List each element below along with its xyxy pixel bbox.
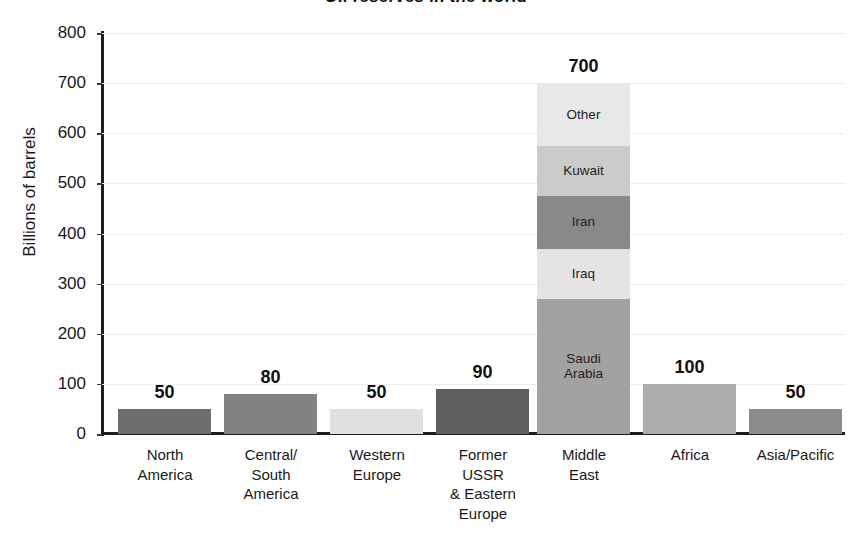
y-tick-mark xyxy=(97,434,102,436)
x-axis-label-7: Asia/Pacific xyxy=(733,445,851,465)
bar-segment-label-line: Saudi xyxy=(537,351,630,367)
bar-value-label: 50 xyxy=(118,383,211,401)
y-tick-label: 300 xyxy=(16,275,86,292)
x-axis-label-line: Asia/Pacific xyxy=(733,445,851,465)
x-axis-label-line: Western xyxy=(322,445,432,465)
bar-value-label: 90 xyxy=(436,363,529,381)
x-axis-label-line: East xyxy=(529,465,639,485)
x-axis-label-line: America xyxy=(216,484,326,504)
bar-5[interactable]: SaudiArabiaIraqIranKuwaitOther700 xyxy=(537,83,630,434)
y-tick-mark xyxy=(97,33,102,35)
y-tick-label: 800 xyxy=(16,24,86,41)
bar-value-label: 100 xyxy=(643,358,736,376)
y-tick-label: 700 xyxy=(16,74,86,91)
y-tick-mark xyxy=(97,384,102,386)
x-axis-label-3: WesternEurope xyxy=(322,445,432,484)
x-axis-label-line: North xyxy=(110,445,220,465)
x-axis-label-line: America xyxy=(110,465,220,485)
y-tick-label: 600 xyxy=(16,124,86,141)
bar-4[interactable]: 90 xyxy=(436,389,529,434)
y-tick-mark xyxy=(97,234,102,236)
gridline xyxy=(102,183,845,184)
gridline xyxy=(102,83,845,84)
y-tick-mark xyxy=(97,133,102,135)
x-axis-label-line: Middle xyxy=(529,445,639,465)
bar-segment-other[interactable]: Other xyxy=(537,83,630,146)
y-tick-mark xyxy=(97,183,102,185)
chart-container: Oil reserves in the world Billions of ba… xyxy=(0,0,851,535)
bar-segment-label-line: Kuwait xyxy=(537,163,630,179)
bar-segment[interactable] xyxy=(643,384,736,434)
bar-value-label: 700 xyxy=(537,57,630,75)
bar-segment-saudi-arabia[interactable]: SaudiArabia xyxy=(537,299,630,434)
bar-segment-iran[interactable]: Iran xyxy=(537,196,630,249)
y-tick-label: 400 xyxy=(16,225,86,242)
x-axis-label-1: NorthAmerica xyxy=(110,445,220,484)
bar-segment-label: Iran xyxy=(537,214,630,230)
bar-6[interactable]: 100 xyxy=(643,384,736,434)
x-axis-label-line: Former xyxy=(428,445,538,465)
x-axis-label-line: Europe xyxy=(428,504,538,524)
bar-2[interactable]: 80 xyxy=(224,394,317,434)
bar-segment-label-line: Iran xyxy=(537,214,630,230)
bar-7[interactable]: 50 xyxy=(749,409,842,434)
bar-value-label: 50 xyxy=(330,383,423,401)
x-axis-label-line: Europe xyxy=(322,465,432,485)
bar-segment[interactable] xyxy=(436,389,529,434)
bar-segment-label: Other xyxy=(537,107,630,123)
y-tick-mark xyxy=(97,334,102,336)
gridline xyxy=(102,234,845,235)
y-tick-label: 200 xyxy=(16,325,86,342)
bar-segment[interactable] xyxy=(330,409,423,434)
bar-segment-label-line: Iraq xyxy=(537,266,630,282)
bar-segment-iraq[interactable]: Iraq xyxy=(537,249,630,299)
x-axis-label-4: FormerUSSR& EasternEurope xyxy=(428,445,538,523)
bar-segment-label: Kuwait xyxy=(537,163,630,179)
x-axis-label-line: USSR xyxy=(428,465,538,485)
gridline xyxy=(102,133,845,134)
x-axis-label-2: Central/SouthAmerica xyxy=(216,445,326,504)
y-tick-label: 100 xyxy=(16,375,86,392)
bar-segment-kuwait[interactable]: Kuwait xyxy=(537,146,630,196)
gridline xyxy=(102,284,845,285)
bar-value-label: 50 xyxy=(749,383,842,401)
x-axis-label-5: MiddleEast xyxy=(529,445,639,484)
x-axis-label-line: Africa xyxy=(635,445,745,465)
plot-area: 800700600500400300200100050805090SaudiAr… xyxy=(102,33,845,434)
bar-segment-label: SaudiArabia xyxy=(537,351,630,382)
gridline xyxy=(102,334,845,335)
bar-1[interactable]: 50 xyxy=(118,409,211,434)
gridline xyxy=(102,33,845,34)
bar-segment-label-line: Other xyxy=(537,107,630,123)
bar-segment[interactable] xyxy=(118,409,211,434)
bar-segment-label: Iraq xyxy=(537,266,630,282)
bar-segment-label-line: Arabia xyxy=(537,366,630,382)
y-tick-label: 500 xyxy=(16,174,86,191)
bar-3[interactable]: 50 xyxy=(330,409,423,434)
x-axis-label-line: Central/ xyxy=(216,445,326,465)
x-axis-label-6: Africa xyxy=(635,445,745,465)
y-tick-mark xyxy=(97,83,102,85)
bar-segment[interactable] xyxy=(224,394,317,434)
bar-value-label: 80 xyxy=(224,368,317,386)
chart-title: Oil reserves in the world xyxy=(0,0,851,7)
x-axis-label-line: & Eastern xyxy=(428,484,538,504)
y-tick-mark xyxy=(97,284,102,286)
x-axis-label-line: South xyxy=(216,465,326,485)
bar-segment[interactable] xyxy=(749,409,842,434)
y-tick-label: 0 xyxy=(16,425,86,442)
